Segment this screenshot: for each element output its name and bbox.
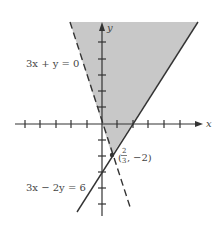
- svg-text:−2): −2): [133, 152, 152, 163]
- y-axis-label: y: [106, 22, 113, 33]
- svg-text:2: 2: [122, 147, 126, 155]
- intersection-point: [110, 153, 114, 157]
- intersection-label: ( 2 3 , −2): [118, 147, 152, 165]
- svg-text:3: 3: [122, 157, 126, 165]
- x-axis-label: x: [206, 118, 212, 129]
- solid-line-label: 3x − 2y = 6: [26, 182, 86, 193]
- x-axis-arrow-icon: [195, 121, 203, 127]
- dashed-line-label: 3x + y = 0: [26, 58, 80, 69]
- shaded-region: [70, 22, 198, 155]
- svg-text:,: ,: [127, 152, 130, 163]
- inequality-graph: x y 3x + y = 0 3x − 2y = 6 ( 2 3 , −2): [0, 0, 221, 227]
